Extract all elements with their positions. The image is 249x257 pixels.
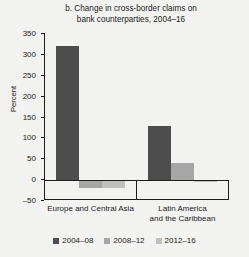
bar-europe-2008-12 xyxy=(79,180,102,188)
chart-title-line-2: bank counterparties, 2004–16 xyxy=(24,14,238,25)
legend-item-2012-16[interactable]: 2012–16 xyxy=(156,236,196,245)
bar-latam-2008-12 xyxy=(171,163,194,180)
legend-label-2008-12: 2008–12 xyxy=(113,236,144,245)
chart-title-line-1: b. Change in cross-border claims on xyxy=(24,3,238,14)
y-tick-300: 300 xyxy=(41,54,44,55)
legend-label-2004-08: 2004–08 xyxy=(62,236,93,245)
chart-title: b. Change in cross-border claims on bank… xyxy=(24,3,238,25)
legend-swatch-icon-2012-16 xyxy=(156,238,162,244)
bar-europe-2004-08 xyxy=(56,46,79,180)
chart-panel: b. Change in cross-border claims on bank… xyxy=(0,0,249,257)
bar-europe-2012-16 xyxy=(102,180,125,188)
legend-swatch-icon-2004-08 xyxy=(53,238,59,244)
y-tick-200: 200 xyxy=(41,96,44,97)
y-tick-100: 100 xyxy=(41,137,44,138)
x-category-label-latam-line-2: and the Caribbean xyxy=(136,214,229,224)
bar-latam-2004-08 xyxy=(148,126,171,180)
x-category-label-europe-line-1: Europe and Central Asia xyxy=(47,204,134,213)
x-axis-divider-tick xyxy=(136,180,137,199)
y-tick-50: 50 xyxy=(41,158,44,159)
x-axis-line xyxy=(44,199,229,200)
legend-swatch-icon-2008-12 xyxy=(104,238,110,244)
legend-item-2008-12[interactable]: 2008–12 xyxy=(104,236,144,245)
y-tick-150: 150 xyxy=(41,117,44,118)
y-axis-line xyxy=(44,33,45,200)
legend-item-2004-08[interactable]: 2004–08 xyxy=(53,236,93,245)
y-tick-250: 250 xyxy=(41,75,44,76)
x-category-label-latam: Latin America and the Caribbean xyxy=(136,204,229,224)
y-tick-350: 350 xyxy=(41,33,44,34)
legend-label-2012-16: 2012–16 xyxy=(165,236,196,245)
x-category-label-europe: Europe and Central Asia xyxy=(34,204,147,214)
y-axis-label: Percent xyxy=(9,86,18,112)
x-category-label-latam-line-1: Latin America xyxy=(136,204,229,214)
chart-legend: 2004–08 2008–12 2012–16 xyxy=(0,236,249,245)
x-axis-end-tick xyxy=(228,180,229,199)
plot-area: 350 300 250 200 150 100 50 0 –50 Europe … xyxy=(44,33,229,200)
y-tick-neg50: –50 xyxy=(41,200,44,201)
